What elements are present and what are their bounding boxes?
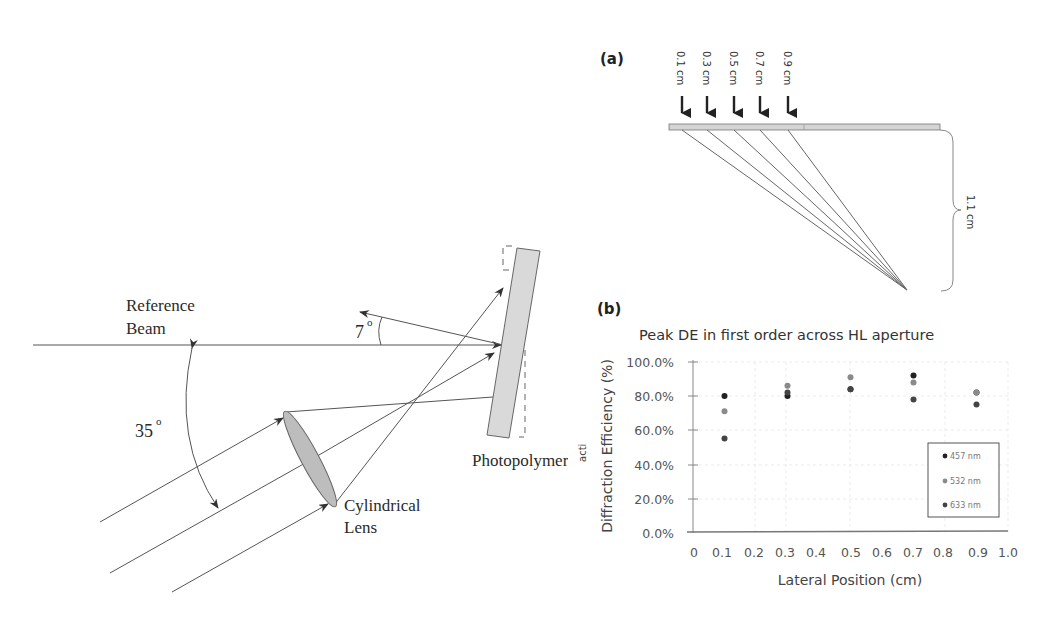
svg-text:0.7: 0.7: [903, 545, 923, 560]
data-point: [848, 374, 854, 380]
cut-text-fragment: acti: [577, 444, 588, 462]
incident-beam-2: [110, 462, 307, 573]
data-point: [911, 373, 917, 379]
reference-beam-label-2: Beam: [126, 319, 166, 338]
diffracted-beam-line: [360, 312, 503, 345]
reference-beam-label-1: Reference: [126, 296, 195, 315]
legend-marker-457: [943, 454, 948, 459]
angle-arc-35deg: [186, 348, 218, 508]
svg-text:100.0%: 100.0%: [626, 355, 674, 370]
data-point: [722, 393, 728, 399]
position-label-0-9: 0.9 cm: [782, 51, 793, 85]
x-axis: [687, 531, 1008, 532]
panel-b: (b) Peak DE in first order across HL ape…: [597, 300, 1018, 588]
scatter-points: [722, 373, 980, 442]
svg-text:20.0%: 20.0%: [634, 492, 674, 507]
photopolymer-label: Photopolymer: [472, 451, 569, 470]
position-label-0-3: 0.3 cm: [701, 51, 712, 85]
chart-legend: 457 nm 532 nm 633 nm: [928, 443, 999, 517]
legend-marker-633: [943, 503, 948, 508]
angle-arc-7deg: [379, 317, 382, 345]
svg-text:0.4: 0.4: [806, 545, 826, 560]
hologram-bar: [669, 124, 940, 130]
svg-text:60.0%: 60.0%: [634, 423, 674, 438]
angle-7-label: 7: [355, 322, 364, 342]
data-point: [785, 383, 791, 389]
svg-text:0.8: 0.8: [933, 545, 953, 560]
legend-marker-532: [943, 479, 948, 484]
data-point: [722, 408, 728, 414]
svg-text:0.2: 0.2: [744, 545, 764, 560]
panel-a-label: (a): [600, 50, 624, 68]
svg-text:0.6: 0.6: [872, 545, 892, 560]
svg-text:0.1: 0.1: [712, 545, 732, 560]
focusing-rays: [682, 130, 907, 290]
height-brace: [940, 130, 961, 291]
cylindrical-lens: [277, 407, 344, 511]
legend-label-457: 457 nm: [950, 452, 981, 461]
legend-label-532: 532 nm: [950, 477, 981, 486]
chart-title: Peak DE in first order across HL apertur…: [639, 327, 934, 343]
svg-text:1.0: 1.0: [998, 545, 1018, 560]
degree-symbol-7: o: [367, 316, 373, 328]
incident-beam-1: [100, 418, 283, 522]
x-tick-labels: 0 0.1 0.2 0.3 0.4 0.5 0.6 0.7 0.8 0.9 1.…: [690, 545, 1018, 560]
data-point: [722, 436, 728, 442]
incident-beam-3: [172, 504, 328, 592]
lens-label-2: Lens: [344, 518, 377, 537]
position-label-0-1: 0.1 cm: [675, 51, 686, 85]
degree-symbol-35: o: [156, 415, 162, 427]
x-axis-title: Lateral Position (cm): [778, 572, 922, 588]
data-point: [785, 390, 791, 396]
panel-a: (a) 0.1 cm 0.3 cm 0.5 cm 0.7 cm 0.9 cm 1…: [600, 50, 976, 291]
position-arrows: [682, 96, 788, 113]
svg-text:0: 0: [690, 545, 698, 560]
angle-35-label: 35: [135, 421, 153, 441]
data-point: [848, 386, 854, 392]
position-label-0-7: 0.7 cm: [754, 51, 765, 85]
lens-label-1: Cylindrical: [344, 496, 421, 515]
data-point: [911, 396, 917, 402]
figure-canvas: Reference Beam 7 o 35 o Photopolymer Cyl…: [0, 0, 1059, 619]
data-point: [974, 390, 980, 396]
position-label-0-5: 0.5 cm: [728, 51, 739, 85]
holographic-recording-setup: [33, 246, 540, 592]
svg-text:0.5: 0.5: [841, 545, 861, 560]
svg-text:0.9: 0.9: [968, 545, 988, 560]
svg-text:0.3: 0.3: [775, 545, 795, 560]
panel-b-label: (b): [597, 300, 621, 318]
svg-text:80.0%: 80.0%: [634, 389, 674, 404]
data-point: [911, 379, 917, 385]
legend-label-633: 633 nm: [950, 501, 981, 510]
height-label: 1.1 cm: [965, 195, 976, 229]
svg-text:0.0%: 0.0%: [642, 526, 674, 541]
data-point: [974, 402, 980, 408]
svg-text:40.0%: 40.0%: [634, 458, 674, 473]
y-tick-labels: 100.0% 80.0% 60.0% 40.0% 20.0% 0.0%: [626, 355, 674, 541]
y-axis-title: Diffraction Efficiency (%): [599, 359, 615, 533]
object-beam-middle: [307, 353, 494, 462]
object-beam-bottom: [334, 288, 503, 505]
object-beam-top: [286, 397, 493, 412]
